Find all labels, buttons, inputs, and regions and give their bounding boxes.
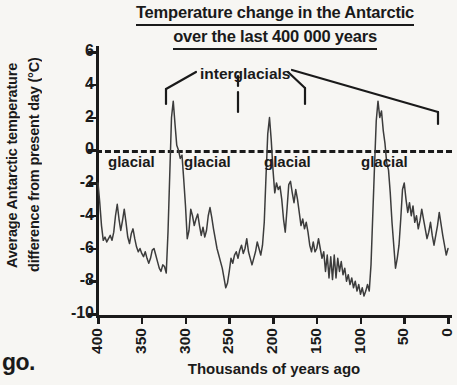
- x-axis-caption: Thousands of years ago: [96, 360, 452, 377]
- x-tick-label-400: 400: [89, 328, 105, 354]
- temperature-curve: [96, 46, 452, 318]
- y-tick-label--4: -4: [80, 207, 94, 223]
- x-tick-label-50: 50: [395, 328, 411, 345]
- y-tick-label-4: 4: [85, 76, 94, 92]
- x-tick-label-250: 250: [220, 328, 236, 354]
- y-axis-caption-line-1: Average Antarctic temperature: [4, 0, 20, 330]
- y-tick-label--6: -6: [80, 240, 94, 256]
- x-tick-label-150: 150: [308, 328, 324, 354]
- y-tick-label--2: -2: [80, 174, 94, 190]
- y-tick-label--10: -10: [71, 305, 94, 321]
- x-tick-label-200: 200: [264, 328, 280, 354]
- label-glacial-2: glacial: [184, 154, 231, 169]
- page-text-fragment: go.: [2, 349, 35, 376]
- label-glacial-4: glacial: [361, 154, 408, 169]
- y-tick-label--8: -8: [80, 272, 94, 288]
- x-tick-label-350: 350: [133, 328, 149, 354]
- y-tick-label-0: 0: [85, 141, 94, 157]
- chart-title-line-1: Temperature change in the Antarctic: [95, 2, 455, 26]
- chart-title: Temperature change in the Antarctic over…: [95, 2, 455, 50]
- x-tick-label-0: 0: [439, 328, 455, 337]
- y-tick-label-2: 2: [85, 109, 94, 125]
- figure-root: Temperature change in the Antarctic over…: [0, 0, 457, 385]
- label-glacial-1: glacial: [108, 154, 155, 169]
- y-tick-label-6: 6: [85, 43, 94, 59]
- x-tick-label-100: 100: [352, 328, 368, 354]
- x-tick-label-300: 300: [177, 328, 193, 354]
- plot-area: 6420-2-4-6-8-10 400350300250200150100500…: [96, 46, 452, 318]
- y-axis-caption-line-2: difference from present day (°C): [26, 0, 42, 330]
- label-glacial-3: glacial: [264, 154, 311, 169]
- y-axis-caption: Average Antarctic temperature difference…: [0, 0, 60, 340]
- label-interglacials: interglacials: [200, 66, 290, 82]
